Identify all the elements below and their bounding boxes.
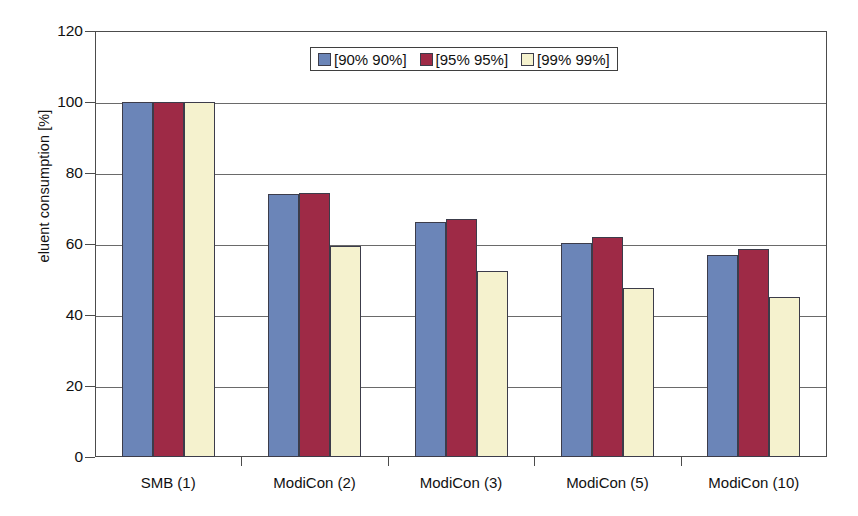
bar (153, 102, 184, 457)
y-tick-mark (85, 173, 95, 174)
y-tick-label: 20 (23, 377, 83, 395)
y-tick-label: 120 (23, 22, 83, 40)
bar (268, 194, 299, 457)
legend-item[interactable]: [95% 95%] (420, 52, 509, 67)
bar (738, 249, 769, 457)
x-tick-label: ModiCon (3) (376, 474, 546, 491)
legend-label: [90% 90%] (334, 52, 407, 67)
y-tick-mark (85, 386, 95, 387)
y-tick-mark (85, 315, 95, 316)
legend-label: [99% 99%] (537, 52, 610, 67)
bar-chart: eluent consumption [%] 020406080100120 S… (0, 0, 858, 516)
legend-item[interactable]: [90% 90%] (318, 52, 407, 67)
bar (299, 193, 330, 457)
y-tick-mark (85, 31, 95, 32)
y-tick-mark (85, 457, 95, 458)
bar (184, 102, 215, 457)
x-tick-label: ModiCon (10) (669, 474, 839, 491)
y-tick-mark (85, 244, 95, 245)
bar (592, 237, 623, 457)
y-tick-label: 100 (23, 93, 83, 111)
bars-layer (95, 31, 827, 457)
bar (769, 297, 800, 457)
y-tick-label: 80 (23, 164, 83, 182)
y-tick-label: 60 (23, 235, 83, 253)
x-tick-mark (388, 457, 389, 466)
bar (623, 288, 654, 457)
bar (415, 222, 446, 457)
y-tick-mark (85, 102, 95, 103)
bar (446, 219, 477, 457)
legend-swatch-icon (420, 53, 433, 66)
x-tick-mark (241, 457, 242, 466)
legend[interactable]: [90% 90%][95% 95%][99% 99%] (310, 47, 618, 71)
x-tick-mark (534, 457, 535, 466)
legend-item[interactable]: [99% 99%] (521, 52, 610, 67)
y-tick-label: 0 (23, 448, 83, 466)
x-tick-label: ModiCon (5) (522, 474, 692, 491)
x-tick-label: ModiCon (2) (230, 474, 400, 491)
legend-label: [95% 95%] (436, 52, 509, 67)
legend-swatch-icon (521, 53, 534, 66)
x-tick-label: SMB (1) (83, 474, 253, 491)
bar (477, 271, 508, 457)
bar (330, 246, 361, 457)
legend-swatch-icon (318, 53, 331, 66)
bar (561, 243, 592, 457)
bar (122, 102, 153, 457)
y-tick-label: 40 (23, 306, 83, 324)
bar (707, 255, 738, 457)
x-tick-mark (681, 457, 682, 466)
